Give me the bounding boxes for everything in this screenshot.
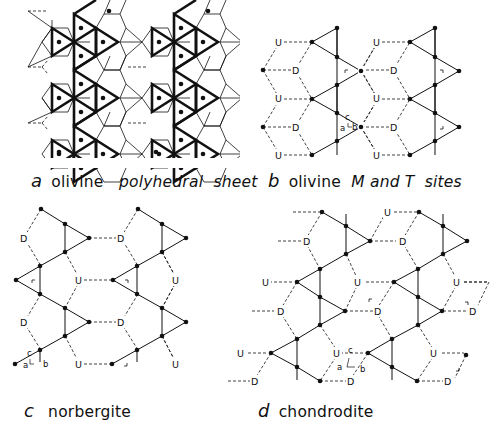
panel-c-axis-indicator: c a b [23, 348, 48, 370]
svg-text:c: c [27, 348, 32, 358]
panel-letter-b: b [268, 170, 280, 191]
svg-text:D: D [374, 306, 381, 317]
crystal-structure-figure: U U U D D U U U D D c a b [0, 0, 496, 426]
svg-text:D: D [390, 122, 397, 133]
panel-c-site-labels: D D U U D D U U [19, 232, 181, 370]
svg-text:U: U [262, 277, 269, 288]
svg-text:b: b [360, 364, 365, 374]
caption-c: cnorbergite [24, 400, 131, 421]
panel-b-axis-indicator: c a b [340, 112, 357, 133]
svg-text:D: D [117, 317, 124, 328]
svg-text:a: a [337, 362, 342, 372]
panel-a-edge-triangles [28, 11, 146, 130]
svg-text:U: U [333, 348, 340, 359]
svg-text:b: b [352, 122, 357, 132]
svg-text:U: U [172, 275, 179, 286]
panel-letter-a: a [31, 170, 42, 191]
svg-text:U: U [373, 93, 380, 104]
svg-text:a: a [23, 360, 28, 370]
svg-text:c: c [348, 345, 353, 355]
svg-text:D: D [292, 122, 299, 133]
caption-b: bolivine M and T sites [268, 170, 462, 191]
svg-text:U: U [373, 150, 380, 161]
svg-text:D: D [444, 376, 451, 387]
panel-d-chondrodite: D U U D U U D D U D D U D U D c a b [228, 206, 489, 387]
svg-text:D: D [347, 376, 354, 387]
svg-text:U: U [75, 359, 82, 370]
svg-text:D: D [390, 65, 397, 76]
svg-text:D: D [251, 376, 258, 387]
svg-text:U: U [75, 275, 82, 286]
svg-text:U: U [430, 348, 437, 359]
panel-letter-c: c [24, 400, 34, 421]
svg-text:U: U [237, 348, 244, 359]
svg-text:D: D [399, 236, 406, 247]
svg-text:D: D [303, 236, 310, 247]
svg-text:U: U [275, 150, 282, 161]
panel-a-polyhedral-sheet [0, 0, 260, 182]
svg-text:U: U [172, 359, 179, 370]
svg-text:c: c [345, 112, 350, 122]
caption-a: aolivine polyhedral sheet [31, 170, 257, 191]
panel-b-m-t-sites: U U U D D U U U D D c a b [261, 26, 462, 161]
svg-text:D: D [277, 306, 284, 317]
svg-text:D: D [117, 233, 124, 244]
svg-text:b: b [43, 359, 48, 369]
svg-text:U: U [354, 277, 361, 288]
svg-text:U: U [275, 93, 282, 104]
svg-text:a: a [340, 123, 345, 133]
svg-text:D: D [20, 317, 27, 328]
panel-c-norbergite: D D U U D D U U c a b [13, 207, 189, 370]
svg-text:U: U [384, 207, 391, 218]
svg-text:U: U [453, 277, 460, 288]
svg-text:D: D [469, 306, 476, 317]
svg-text:U: U [373, 37, 380, 48]
svg-text:U: U [275, 37, 282, 48]
caption-d: dchondrodite [258, 400, 374, 421]
svg-text:D: D [292, 65, 299, 76]
panel-a-unit-left [42, 0, 242, 182]
panel-letter-d: d [258, 400, 270, 421]
svg-text:D: D [20, 233, 27, 244]
